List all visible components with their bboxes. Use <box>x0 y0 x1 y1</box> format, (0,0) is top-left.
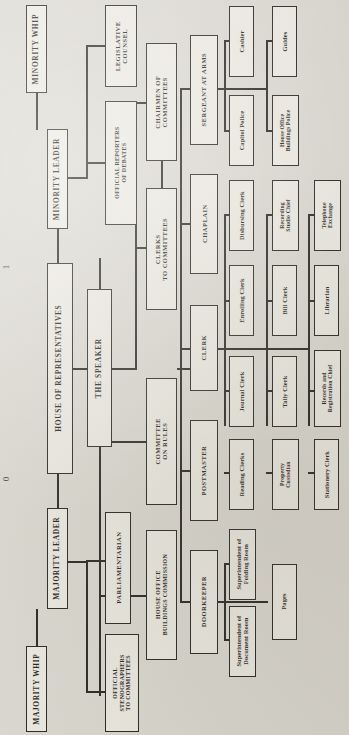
line-bus-to-stenographers <box>86 691 105 693</box>
node-guides[interactable]: Guides <box>272 6 297 77</box>
node-official-stenographers-to-committees[interactable]: OFFICIALSTENOGRAPHERSTO COMMITTEES <box>105 634 139 732</box>
node-sergeant-at-arms[interactable]: SERGEANT AT ARMS <box>190 35 218 145</box>
line-majority-leader-to-whip <box>36 609 38 647</box>
node-reading-clerks[interactable]: Reading Clerks <box>229 439 254 510</box>
node-records-and-registration-chief[interactable]: Records andRegistration Chief <box>314 350 341 427</box>
line-house-to-speaker <box>73 368 87 370</box>
bus-minority-leader <box>86 45 88 179</box>
node-chaplain[interactable]: CHAPLAIN <box>190 174 218 274</box>
node-house-of-representatives[interactable]: HOUSE OF REPRESENTATIVES <box>47 263 73 474</box>
node-superintendent-of-document-room[interactable]: Superintendent ofDocument Room <box>229 606 256 677</box>
node-enrolling-clerk[interactable]: Enrolling Clerk <box>229 265 254 336</box>
node-house-office-buildings-police[interactable]: House OfficeBuildings Police <box>272 95 299 166</box>
node-postmaster[interactable]: POSTMASTER <box>190 420 218 521</box>
node-majority-whip[interactable]: MAJORITY WHIP <box>26 646 47 732</box>
page-number-left: 0 <box>4 474 9 484</box>
node-doorkeeper[interactable]: DOORKEEPER <box>190 550 218 654</box>
node-minority-whip[interactable]: MINORITY WHIP <box>26 5 47 93</box>
speaker-spine-lower <box>99 438 101 696</box>
node-stationery-clerk[interactable]: Stationery Clerk <box>314 439 339 510</box>
node-chairmen-of-committees[interactable]: CHAIRMEN OFCOMMITTEES <box>146 43 177 161</box>
bus-clerk-3 <box>308 214 310 426</box>
node-clerk[interactable]: CLERK <box>190 305 218 391</box>
node-pages[interactable]: Pages <box>272 564 297 640</box>
node-committee-on-rules[interactable]: COMMITTEEON RULES <box>146 378 177 505</box>
node-journal-clerk[interactable]: Journal Clerk <box>229 356 254 427</box>
line-sergeant-second-level-feed <box>224 88 268 90</box>
line-hor-to-majority-leader <box>57 473 59 509</box>
line-bus-to-official-reporters <box>86 162 105 164</box>
node-clerks-to-committees[interactable]: CLERKSTO COMMITTEES <box>146 188 177 310</box>
bus-sergeant <box>224 40 226 132</box>
node-superintendent-of-folding-room[interactable]: Superintendent ofFolding Room <box>229 529 256 600</box>
line-clerk-col3-feed <box>266 348 310 350</box>
node-tally-clerk[interactable]: Tally Clerk <box>272 356 297 427</box>
node-majority-leader[interactable]: MAJORITY LEADER <box>47 508 68 609</box>
node-disbursing-clerk[interactable]: Disbursing Clerk <box>229 180 254 251</box>
bus-majority-leader <box>86 560 88 693</box>
node-capitol-police[interactable]: Capitol Police <box>229 95 254 166</box>
line-bus-to-legislative-counsel <box>86 45 105 47</box>
line-clerk-col2-feed <box>224 348 268 350</box>
node-house-office-buildings-commission[interactable]: HOUSE OFFICEBUILDINGS COMMISSION <box>146 530 177 660</box>
bus-officers-lower <box>180 368 182 602</box>
page-number-right: 1 <box>4 262 9 272</box>
node-minority-leader[interactable]: MINORITY LEADER <box>47 129 68 229</box>
org-chart-canvas: 0 1 <box>0 0 349 735</box>
bus-sergeant-2 <box>266 40 268 132</box>
node-official-reporters-of-debates[interactable]: OFFICIAL REPORTERSOF DEBATES <box>105 101 137 225</box>
node-telephone-exchange[interactable]: TelephoneExchange <box>314 180 341 251</box>
line-bus-to-parliamentarian <box>86 560 105 562</box>
line-speaker-to-committees-bus <box>112 368 136 370</box>
node-property-custodian[interactable]: PropertyCustodian <box>272 439 299 510</box>
node-bill-clerk[interactable]: Bill Clerk <box>272 265 297 336</box>
line-to-pages <box>224 601 268 603</box>
bus-clerk <box>224 214 226 426</box>
node-cashier[interactable]: Cashier <box>229 6 254 77</box>
node-legislative-counsel[interactable]: LEGISLATIVECOUNSEL <box>105 5 137 87</box>
line-chairmen-to-clerks <box>161 160 163 188</box>
node-librarian[interactable]: Librarian <box>314 265 339 336</box>
node-the-speaker[interactable]: THE SPEAKER <box>87 289 112 447</box>
bus-officers-upper <box>180 88 182 370</box>
bus-clerk-2 <box>266 214 268 426</box>
line-hor-to-minority-leader <box>57 228 59 264</box>
node-parliamentarian[interactable]: PARLIAMENTARIAN <box>105 512 131 624</box>
line-minority-leader-to-whip <box>36 92 38 130</box>
node-recording-studio-chief[interactable]: RecordingStudio Chief <box>272 180 299 251</box>
